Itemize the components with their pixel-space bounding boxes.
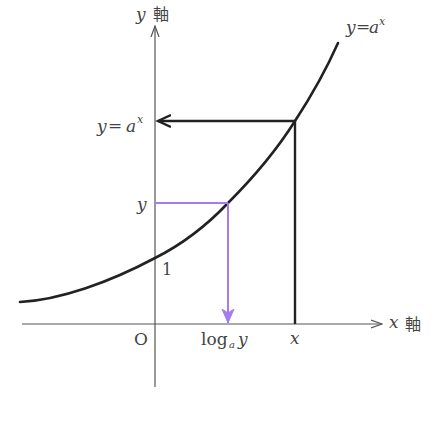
y-axis-label-var: y [135,4,146,24]
y-tick-lower: y [136,194,147,214]
x-tick-log-text: log [201,329,228,349]
y-tick-upper-y: y [96,116,107,136]
exponential-curve [20,43,338,302]
curve-label-base: a [369,17,379,37]
x-axis-label-kanji: 軸 [405,315,421,334]
curve-label-exp: x [379,15,386,28]
diagram-canvas: y 軸 x 軸 O y = a x 1 y = a x y log a y x [0,0,439,425]
x-tick-x: x [290,328,300,348]
x-tick-log-arg: y [237,329,248,349]
x-tick-log-sub: a [229,339,235,350]
y-tick-upper-eq: = [108,115,122,135]
y-axis-label-kanji: 軸 [153,5,169,24]
y-intercept-label: 1 [162,260,172,279]
y-tick-upper-base: a [126,116,136,136]
y-tick-upper-exp: x [137,113,144,126]
curve-label-y: y [345,17,356,37]
origin-label: O [134,329,148,349]
x-axis-label-var: x [389,312,399,332]
